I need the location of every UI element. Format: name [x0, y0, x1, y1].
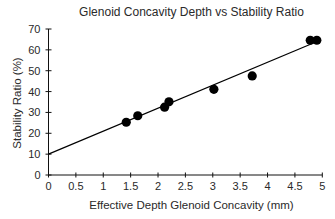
data-point	[209, 85, 218, 94]
x-tick-label: 1	[100, 180, 106, 192]
x-tick-label: 4.5	[287, 180, 302, 192]
data-point	[122, 118, 131, 127]
y-tick-label: 50	[28, 65, 40, 77]
x-tick-label: 2.5	[178, 180, 193, 192]
x-tick-label: 0.5	[68, 180, 83, 192]
x-tick-label: 0	[45, 180, 51, 192]
trendline	[49, 43, 315, 154]
y-tick-label: 70	[28, 23, 40, 35]
data-point	[248, 71, 257, 80]
scatter-plot: 00.511.522.533.544.55010203040506070	[0, 0, 335, 219]
x-tick-label: 4	[264, 180, 270, 192]
y-tick-label: 40	[28, 86, 40, 98]
y-tick-label: 60	[28, 44, 40, 56]
data-point	[164, 97, 173, 106]
data-point	[312, 36, 321, 45]
regression-line	[49, 43, 315, 154]
y-tick-label: 10	[28, 148, 40, 160]
x-tick-label: 2	[155, 180, 161, 192]
axes: 00.511.522.533.544.55010203040506070	[28, 23, 325, 192]
y-tick-label: 30	[28, 106, 40, 118]
y-tick-label: 20	[28, 127, 40, 139]
y-tick-label: 0	[34, 169, 40, 181]
x-tick-label: 3.5	[233, 180, 248, 192]
data-point	[133, 111, 142, 120]
x-tick-label: 3	[210, 180, 216, 192]
x-tick-label: 1.5	[123, 180, 138, 192]
x-tick-label: 5	[319, 180, 325, 192]
